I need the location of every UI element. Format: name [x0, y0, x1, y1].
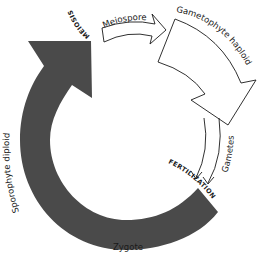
gametes-label: Gametes — [219, 135, 235, 174]
sporophyte-label: Sporophyte diploid — [1, 133, 21, 215]
life-cycle-diagram: Meiospore Gametophyte haploid Gametes FE… — [0, 0, 260, 255]
meiosis-label: MEIOSIS — [66, 9, 91, 41]
zygote-label: Zygote — [113, 242, 143, 252]
gametophyte-arrow — [158, 19, 256, 125]
